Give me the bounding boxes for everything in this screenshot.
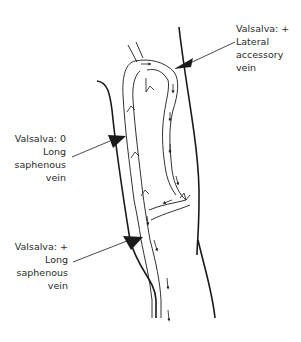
lateral-accessory-outer	[135, 60, 186, 200]
label-lateral-accessory-vein: Valsalva: + Lateral accessory vein	[236, 22, 289, 74]
label-long-saphenous-lower: Valsalva: + Long saphenous vein	[0, 240, 68, 292]
vein-diagram: Valsalva: + Lateral accessory vein Valsa…	[0, 0, 301, 342]
label-long-saphenous-upper: Valsalva: 0 Long saphenous vein	[0, 132, 66, 184]
vein-stub	[136, 42, 143, 58]
long-saphenous-inner	[133, 71, 161, 318]
valve-mark	[146, 78, 154, 92]
lateral-accessory-inner	[147, 69, 176, 195]
long-saphenous-outer	[123, 61, 152, 318]
leg-contour-left	[97, 81, 156, 318]
leg-contour-right-lower	[198, 240, 215, 318]
vein-stub	[128, 45, 137, 62]
